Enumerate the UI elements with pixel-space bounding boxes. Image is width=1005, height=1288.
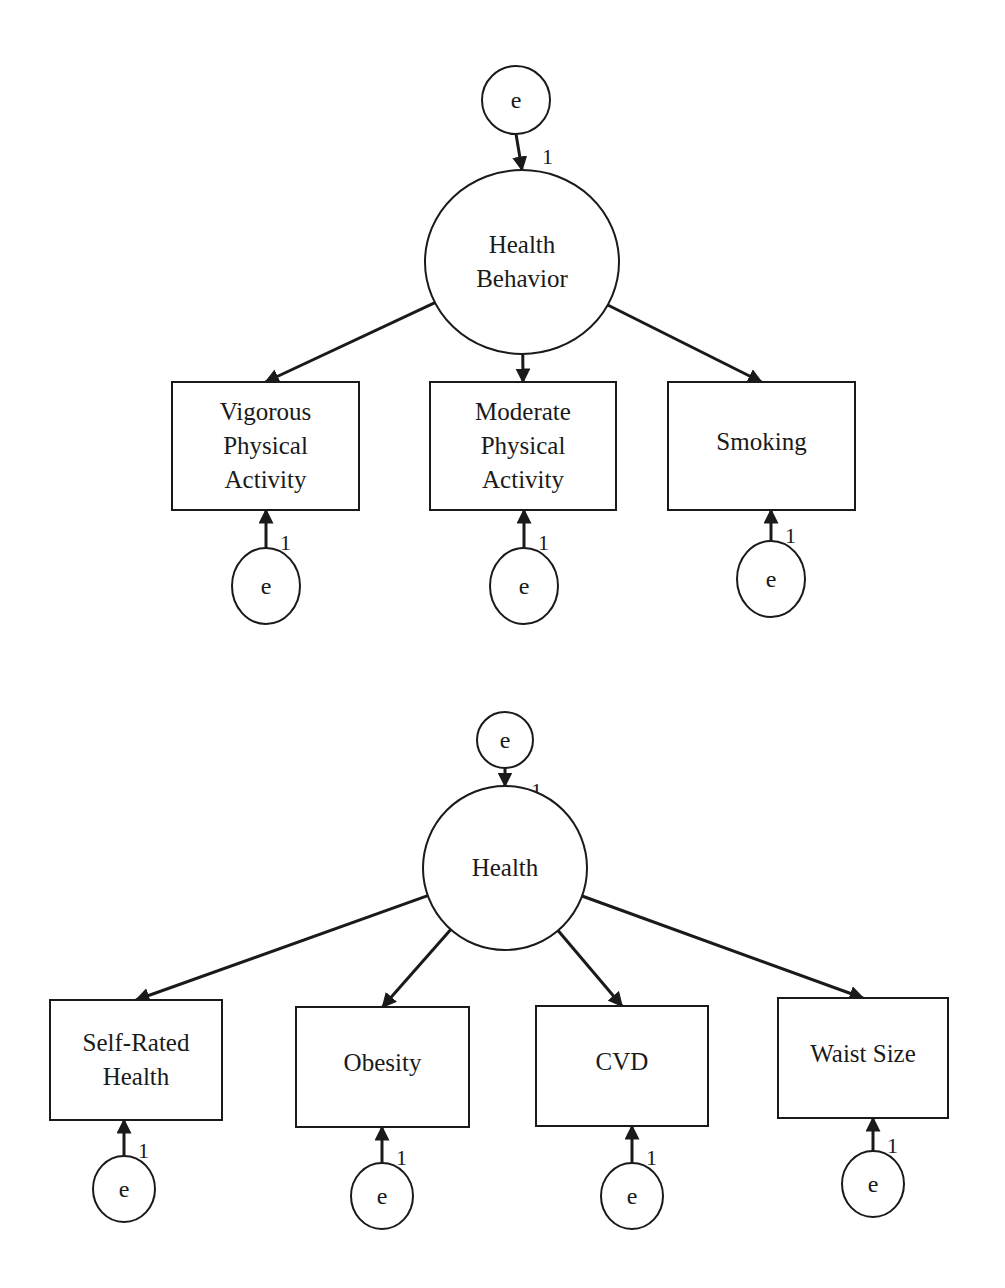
indicator-error-node: e [842,1151,904,1217]
error-label: e [377,1183,388,1209]
indicator-node: ModeratePhysicalActivity [430,382,616,510]
node-label-line: CVD [596,1048,649,1075]
loading-path-arrow [582,896,863,998]
indicator-error-node: e [351,1163,413,1229]
loading-path-arrow [266,303,436,382]
node-label-line: Obesity [344,1049,422,1076]
node-label-line: Activity [225,466,307,493]
loading-path-arrow [608,305,762,382]
node-label-line: Activity [482,466,564,493]
loading-path-arrow [136,896,428,1000]
error-label: e [868,1171,879,1197]
loading-path-arrow [558,931,622,1006]
latent-error-node: e [477,712,533,768]
indicator-node: Smoking [668,382,855,510]
latent-error-node: e [482,66,550,134]
error-label: e [519,573,530,599]
node-label-line: Health [472,854,539,881]
error-label: e [261,573,272,599]
latent-ellipse [425,170,619,354]
sem-diagram-canvas: 1eHealthBehaviorVigorousPhysicalActivity… [0,0,1005,1288]
node-label-line: Self-Rated [83,1029,190,1056]
path-weight-label: 1 [542,144,553,169]
indicator-error-node: e [601,1163,663,1229]
indicator-node: Waist Size [778,998,948,1118]
node-label-line: Smoking [716,428,807,455]
node-label-line: Physical [223,432,308,459]
error-label: e [766,566,777,592]
node-label-line: Waist Size [810,1040,916,1067]
latent-variable-node: Health [423,786,587,950]
indicator-error-node: e [737,541,805,617]
error-label: e [500,727,511,753]
indicator-node: CVD [536,1006,708,1126]
node-label-line: Physical [481,432,566,459]
indicator-box [50,1000,222,1120]
node-label-line: Vigorous [220,398,312,425]
indicator-error-node: e [490,548,558,624]
error-label: e [511,87,522,113]
node-label-line: Health [489,231,556,258]
indicator-node: Self-RatedHealth [50,1000,222,1120]
error-path-arrow [516,134,522,170]
latent-variable-node: HealthBehavior [425,170,619,354]
loading-path-arrow [383,930,451,1007]
indicator-error-node: e [93,1156,155,1222]
indicator-error-node: e [232,548,300,624]
node-label-line: Moderate [475,398,571,425]
indicator-node: VigorousPhysicalActivity [172,382,359,510]
node-label-line: Health [103,1063,170,1090]
error-label: e [627,1183,638,1209]
indicator-node: Obesity [296,1007,469,1127]
error-label: e [119,1176,130,1202]
node-label-line: Behavior [476,265,568,292]
